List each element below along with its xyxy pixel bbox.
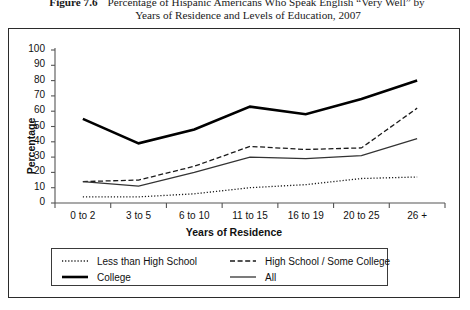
series-group <box>83 81 417 197</box>
caption-line-1: Figure 7.6Percentage of Hispanic America… <box>0 0 470 9</box>
legend-label: College <box>97 272 131 283</box>
x-axis-tick-label: 26 + <box>383 210 451 221</box>
legend-college[interactable]: College <box>60 269 131 285</box>
legend-label: High School / Some College <box>265 256 390 267</box>
y-axis-tick-label: 0 <box>15 196 45 207</box>
figure-caption: Figure 7.6Percentage of Hispanic America… <box>0 0 470 22</box>
legend-high-school-some-college[interactable]: High School / Some College <box>228 253 390 269</box>
y-axis-tick-label: 80 <box>15 74 45 85</box>
chart-legend: Less than High SchoolHigh School / Some … <box>51 248 388 286</box>
chart-area: Percentage Years of Residence 0102030405… <box>8 28 460 298</box>
y-axis-tick-label: 70 <box>15 89 45 100</box>
series-line-college <box>83 81 417 144</box>
y-axis-tick-label: 50 <box>15 120 45 131</box>
legend-swatch-icon <box>60 272 90 282</box>
y-axis-tick-label: 10 <box>15 181 45 192</box>
legend-label: All <box>265 272 276 283</box>
legend-label: Less than High School <box>97 256 197 267</box>
y-axis-tick-label: 60 <box>15 104 45 115</box>
legend-swatch-icon <box>60 256 90 266</box>
y-axis-tick-label: 20 <box>15 165 45 176</box>
legend-all[interactable]: All <box>228 269 276 285</box>
legend-less-than-high-school[interactable]: Less than High School <box>60 253 197 269</box>
legend-swatch-icon <box>228 256 258 266</box>
caption-line-1-text: Percentage of Hispanic Americans Who Spe… <box>108 0 425 8</box>
series-line-all <box>83 139 417 186</box>
y-axis-tick-label: 90 <box>15 58 45 69</box>
series-line-high-school-some-college <box>83 108 417 181</box>
y-axis-tick-label: 30 <box>15 150 45 161</box>
y-axis-tick-label: 40 <box>15 135 45 146</box>
figure-number: Figure 7.6 <box>49 0 97 8</box>
y-axis-tick-label: 100 <box>15 43 45 54</box>
legend-swatch-icon <box>228 272 258 282</box>
caption-line-2: Years of Residence and Levels of Educati… <box>0 9 470 22</box>
